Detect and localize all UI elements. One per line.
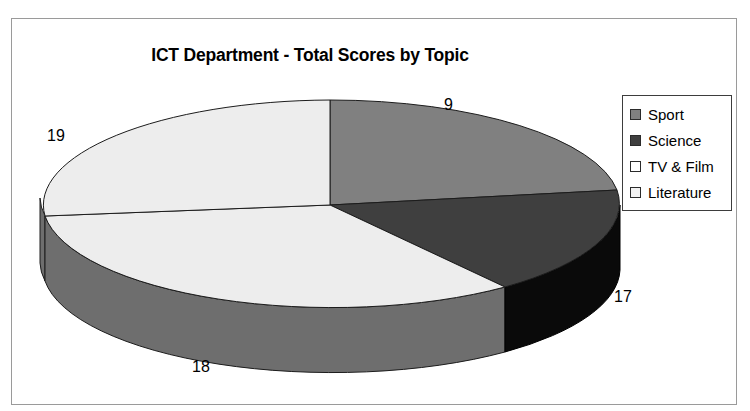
legend-swatch-science (630, 135, 641, 146)
legend-label-sport: Sport (648, 107, 684, 122)
legend-swatch-literature (630, 187, 641, 198)
legend-item-sport: Sport (630, 101, 731, 127)
legend-item-tv-and-film: TV & Film (630, 153, 731, 179)
pie-slice-literature (43, 100, 330, 216)
data-label-sport: 9 (444, 96, 453, 114)
chart-legend: Sport Science TV & Film Literature (622, 95, 732, 211)
data-label-tv-and-film: 18 (192, 358, 210, 376)
legend-item-literature: Literature (630, 179, 731, 205)
pie-chart-figure: ICT Department - Total Scores by Topic 9… (0, 0, 750, 411)
pie-slice-sport (330, 100, 617, 205)
legend-label-literature: Literature (648, 185, 711, 200)
legend-swatch-tv-and-film (630, 161, 641, 172)
legend-label-tv-and-film: TV & Film (648, 159, 714, 174)
data-label-science: 17 (614, 288, 632, 306)
legend-label-science: Science (648, 133, 701, 148)
data-label-literature: 19 (47, 127, 65, 145)
legend-item-science: Science (630, 127, 731, 153)
legend-swatch-sport (630, 109, 641, 120)
